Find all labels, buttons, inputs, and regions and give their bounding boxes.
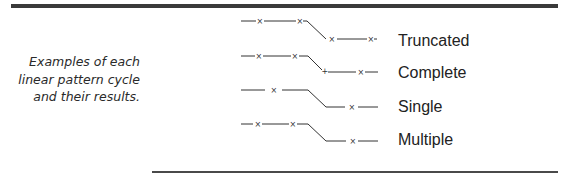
cross-marker-icon: × [350, 137, 357, 146]
pattern-truncated-diagram: × × × × [241, 17, 377, 44]
cross-marker-icon: × [329, 35, 336, 44]
pattern-multiple-diagram: × × × [241, 120, 378, 146]
bottom-rule [152, 171, 558, 173]
cross-marker-icon: × [358, 68, 365, 77]
label-single: Single [398, 98, 442, 116]
pattern-complete-diagram: × × + × [241, 52, 378, 77]
label-multiple: Multiple [398, 131, 453, 149]
label-truncated: Truncated [398, 32, 469, 50]
label-complete: Complete [398, 64, 466, 82]
cross-marker-icon: × [292, 52, 299, 61]
cross-marker-icon: × [368, 35, 375, 44]
cross-marker-icon: × [297, 17, 304, 26]
cross-marker-icon: × [271, 86, 278, 95]
cross-marker-icon: × [290, 120, 297, 129]
cross-marker-icon: × [256, 52, 263, 61]
plus-join-icon: + [322, 67, 329, 76]
pattern-diagrams: × × × × × × + × × × × × [0, 0, 579, 180]
cross-marker-icon: × [257, 17, 264, 26]
cross-marker-icon: × [349, 103, 356, 112]
cross-marker-icon: × [255, 120, 262, 129]
pattern-single-diagram: × × [241, 86, 378, 112]
